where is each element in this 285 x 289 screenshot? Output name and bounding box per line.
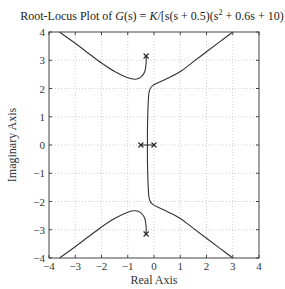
x-tick-label: 4 (256, 260, 262, 272)
x-tick-label: 2 (204, 260, 210, 272)
x-tick-label: 0 (151, 260, 157, 272)
y-tick-label: 4 (40, 26, 46, 38)
locus-branch-upper-left (60, 32, 147, 79)
y-tick-label: −2 (33, 196, 45, 208)
root-locus-chart: Root-Locus Plot of G(s) = K/[s(s + 0.5)(… (0, 0, 285, 289)
x-tick-label: 1 (178, 260, 184, 272)
y-tick-label: 0 (40, 139, 46, 151)
y-tick-label: −1 (33, 167, 45, 179)
x-tick-label: 3 (230, 260, 236, 272)
y-tick-label: −3 (33, 224, 45, 236)
y-tick-label: 3 (40, 54, 46, 66)
y-tick-label: −4 (33, 252, 45, 264)
x-tick-label: −2 (96, 260, 108, 272)
x-tick-label: −3 (69, 260, 81, 272)
locus-branch-lower-left (60, 211, 147, 258)
y-tick-label: 2 (40, 83, 46, 95)
y-axis-label: Imaginary Axis (5, 108, 19, 183)
x-axis-label: Real Axis (131, 273, 178, 287)
y-tick-label: 1 (40, 111, 46, 123)
chart-title: Root-Locus Plot of G(s) = K/[s(s + 0.5)(… (20, 8, 285, 23)
x-tick-label: −1 (122, 260, 134, 272)
x-axis-ticks: −4−3−2−101234 (43, 32, 262, 272)
